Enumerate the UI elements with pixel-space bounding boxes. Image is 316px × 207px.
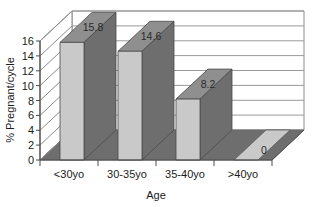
y-tick-label: 10 — [22, 80, 34, 92]
x-category-label: 30-35yo — [107, 168, 147, 180]
y-axis-title: % Pregnant/cycle — [4, 57, 16, 143]
x-category-label: 35-40yo — [165, 168, 205, 180]
y-tick-label: 6 — [28, 109, 34, 121]
y-tick-label: 4 — [28, 124, 34, 136]
bar-front — [176, 99, 200, 160]
bar-value-label: 15.8 — [83, 21, 104, 33]
y-tick-label: 8 — [28, 95, 34, 107]
bar-group-1 — [60, 12, 116, 160]
bar-value-label: 0 — [261, 144, 267, 156]
bar-chart: 0 2 4 6 8 10 12 14 16 0 8.2 — [0, 0, 316, 207]
y-tick-label: 2 — [28, 139, 34, 151]
x-category-label: >40yo — [228, 168, 258, 180]
y-tick-label: 0 — [28, 154, 34, 166]
y-tick-label: 12 — [22, 65, 34, 77]
chart-svg: 0 2 4 6 8 10 12 14 16 0 8.2 — [0, 0, 316, 207]
y-tick-label: 16 — [22, 35, 34, 47]
bar-front — [60, 42, 84, 160]
bar-value-label: 8.2 — [201, 78, 216, 90]
x-axis-title: Age — [146, 189, 166, 201]
bar-value-label: 14.6 — [141, 30, 162, 42]
bar-front — [118, 51, 142, 160]
x-category-label: <30yo — [54, 168, 84, 180]
y-tick-label: 14 — [22, 50, 34, 62]
